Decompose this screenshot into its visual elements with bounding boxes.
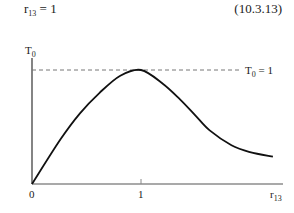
y-axis-label-sub: 0 bbox=[32, 50, 36, 59]
x-tick-label-0: 0 bbox=[29, 188, 35, 200]
data-curve bbox=[32, 70, 273, 184]
ref-label-base: T bbox=[245, 64, 252, 76]
x-tick-label-1: 1 bbox=[138, 188, 144, 200]
reference-line-label: T0 = 1 bbox=[245, 64, 273, 76]
chart bbox=[0, 0, 294, 213]
x-axis-label-sub: 13 bbox=[274, 194, 282, 203]
y-axis-label-base: T bbox=[25, 44, 32, 56]
x-axis-label: r13 bbox=[270, 188, 282, 200]
y-axis-label: T0 bbox=[25, 44, 36, 56]
ref-label-rhs: = 1 bbox=[256, 64, 273, 76]
